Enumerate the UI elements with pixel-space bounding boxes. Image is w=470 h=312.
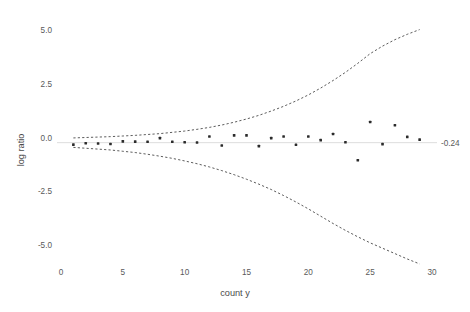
- data-point: [134, 140, 137, 143]
- x-tick-label: 20: [304, 268, 314, 277]
- data-point: [332, 133, 335, 136]
- x-tick-label: 30: [427, 268, 437, 277]
- data-point: [295, 144, 298, 147]
- data-point: [357, 159, 360, 162]
- data-point: [406, 136, 409, 139]
- y-tick-label: -2.5: [38, 187, 53, 196]
- data-point: [84, 142, 87, 145]
- data-point: [171, 141, 174, 144]
- y-tick-label: 0.0: [41, 134, 53, 143]
- data-point: [220, 144, 223, 147]
- data-point: [394, 124, 397, 127]
- data-point: [72, 143, 75, 146]
- plot-canvas: 5.02.50.0-2.5-5.0 051015202530 -0.24 cou…: [0, 0, 470, 312]
- data-point: [381, 143, 384, 146]
- data-point: [270, 137, 273, 140]
- data-point: [245, 134, 248, 137]
- y-tick-label: -5.0: [38, 241, 53, 250]
- data-point: [208, 135, 211, 138]
- data-point: [307, 135, 310, 138]
- data-point: [282, 135, 285, 138]
- data-point: [97, 142, 100, 145]
- reference-line-annotation: -0.24: [441, 139, 460, 148]
- data-point: [159, 137, 162, 140]
- data-point: [122, 140, 125, 143]
- chart-background: [0, 0, 470, 312]
- data-point: [258, 145, 261, 148]
- y-tick-label: 2.5: [41, 80, 53, 89]
- data-point: [369, 121, 372, 124]
- x-tick-label: 0: [59, 268, 64, 277]
- data-point: [233, 134, 236, 137]
- data-point: [183, 141, 186, 144]
- y-axis-title: log ratio: [16, 134, 26, 167]
- x-tick-label: 5: [121, 268, 126, 277]
- data-point: [418, 138, 421, 141]
- x-tick-label: 15: [242, 268, 252, 277]
- data-point: [196, 141, 199, 144]
- x-tick-label: 10: [180, 268, 190, 277]
- data-point: [319, 139, 322, 142]
- data-point: [109, 143, 112, 146]
- funnel-plot-chart: 5.02.50.0-2.5-5.0 051015202530 -0.24 cou…: [0, 0, 470, 312]
- y-tick-label: 5.0: [41, 26, 53, 35]
- x-axis-title: count y: [220, 288, 250, 298]
- x-tick-label: 25: [366, 268, 376, 277]
- data-point: [146, 141, 149, 144]
- data-point: [344, 141, 347, 144]
